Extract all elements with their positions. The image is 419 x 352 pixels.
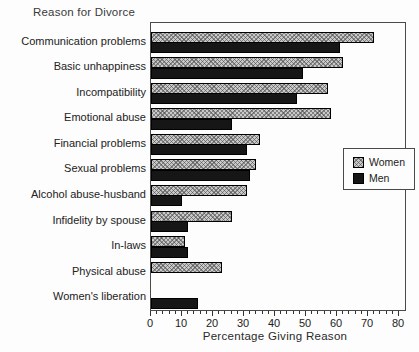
x-tick-minor (206, 311, 207, 314)
x-tick-major (181, 311, 182, 316)
x-tick-minor (386, 311, 387, 314)
x-tick-label: 10 (175, 317, 187, 329)
x-tick-label: 40 (268, 317, 280, 329)
x-tick-minor (348, 311, 349, 314)
legend: Women Men (343, 148, 415, 190)
bar-men (151, 221, 188, 232)
x-tick-minor (311, 311, 312, 314)
x-tick-major (336, 311, 337, 316)
x-axis-title: Percentage Giving Reason (150, 330, 400, 342)
category-label: Alcohol abuse-husband (0, 188, 146, 200)
x-tick-minor (379, 311, 380, 314)
bar-men (151, 195, 182, 206)
category-label: Financial problems (0, 137, 146, 149)
x-tick-minor (200, 311, 201, 314)
x-tick-minor (317, 311, 318, 314)
bar-men (151, 42, 340, 53)
x-tick-minor (373, 311, 374, 314)
x-tick-minor (237, 311, 238, 314)
x-tick-label: 20 (206, 317, 218, 329)
x-tick-major (367, 311, 368, 316)
x-tick-label: 70 (361, 317, 373, 329)
x-tick-minor (268, 311, 269, 314)
x-tick-minor (280, 311, 281, 314)
x-tick-minor (262, 311, 263, 314)
category-label: Communication problems (0, 35, 146, 47)
category-label: Incompatibility (0, 86, 146, 98)
men-swatch-icon (353, 173, 364, 184)
x-tick-major (274, 311, 275, 316)
x-tick-minor (255, 311, 256, 314)
x-tick-minor (293, 311, 294, 314)
women-swatch-icon (353, 157, 364, 168)
x-tick-label: 80 (392, 317, 404, 329)
x-tick-minor (249, 311, 250, 314)
bar-men (151, 298, 198, 309)
x-tick-minor (355, 311, 356, 314)
bar-men (151, 68, 303, 79)
x-tick-major (398, 311, 399, 316)
bar-men (151, 170, 250, 181)
bar-women (151, 185, 247, 196)
legend-item-women: Women (353, 154, 414, 170)
x-tick-minor (162, 311, 163, 314)
divorce-reasons-bar-chart: Reason for Divorce Communication problem… (0, 0, 419, 352)
category-label: Physical abuse (0, 265, 146, 277)
x-tick-major (305, 311, 306, 316)
bar-women (151, 32, 374, 43)
x-tick-label: 30 (237, 317, 249, 329)
bar-women (151, 83, 328, 94)
x-tick-minor (231, 311, 232, 314)
bar-women (151, 159, 256, 170)
category-label: Emotional abuse (0, 111, 146, 123)
x-tick-minor (169, 311, 170, 314)
x-tick-minor (156, 311, 157, 314)
x-tick-major (150, 311, 151, 316)
bar-men (151, 144, 247, 155)
category-label: Sexual problems (0, 162, 146, 174)
legend-item-men: Men (353, 170, 414, 186)
legend-label-women: Women (369, 156, 405, 168)
bar-women (151, 236, 185, 247)
chart-title: Reason for Divorce (33, 6, 135, 18)
bar-women (151, 108, 331, 119)
x-tick-minor (361, 311, 362, 314)
category-label: Basic unhappiness (0, 60, 146, 72)
x-tick-minor (286, 311, 287, 314)
bar-women (151, 57, 343, 68)
bar-women (151, 134, 260, 145)
bar-men (151, 93, 297, 104)
bar-men (151, 247, 188, 258)
x-tick-minor (330, 311, 331, 314)
x-tick-minor (342, 311, 343, 314)
category-label: In-laws (0, 239, 146, 251)
category-label: Women's liberation (0, 290, 146, 302)
x-tick-minor (392, 311, 393, 314)
bar-men (151, 119, 232, 130)
x-tick-major (212, 311, 213, 316)
x-tick-major (243, 311, 244, 316)
x-tick-label: 0 (147, 317, 153, 329)
x-tick-minor (175, 311, 176, 314)
x-tick-label: 50 (299, 317, 311, 329)
bar-women (151, 211, 232, 222)
x-tick-minor (218, 311, 219, 314)
x-tick-minor (224, 311, 225, 314)
x-tick-minor (299, 311, 300, 314)
x-tick-label: 60 (330, 317, 342, 329)
category-label: Infidelity by spouse (0, 214, 146, 226)
legend-label-men: Men (369, 172, 389, 184)
x-tick-minor (324, 311, 325, 314)
x-tick-minor (193, 311, 194, 314)
bar-women (151, 262, 222, 273)
x-tick-minor (187, 311, 188, 314)
